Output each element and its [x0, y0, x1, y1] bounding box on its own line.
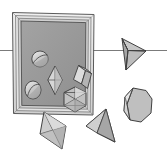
illustration-canvas: Geometric solids arranged around a pictu…	[0, 0, 167, 153]
solid-sphere-upper	[32, 51, 49, 68]
solid-sphere-lower	[25, 81, 41, 99]
geometric-solids-illustration	[0, 0, 167, 153]
